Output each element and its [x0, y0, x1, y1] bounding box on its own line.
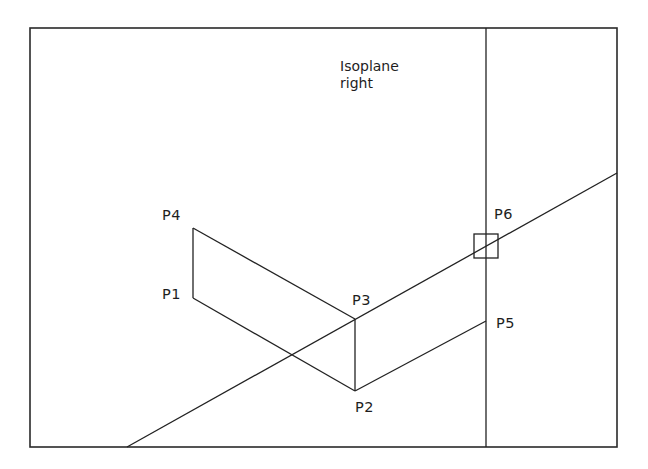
drawing-frame [30, 28, 617, 447]
point-label-p6: P6 [494, 207, 513, 222]
point-label-p3: P3 [352, 293, 371, 308]
drawing-canvas [0, 0, 648, 469]
point-label-p4: P4 [162, 208, 181, 223]
segment-p1-p2 [193, 298, 355, 391]
point-label-p5: P5 [496, 316, 515, 331]
isoplane-note: Isoplane right [340, 58, 399, 92]
point-label-p1: P1 [162, 287, 181, 302]
isoplane-note-line-1: Isoplane [340, 58, 399, 75]
segment-p4-p3 [193, 228, 355, 319]
point-label-p2: P2 [355, 400, 374, 415]
segment-p2-p5 [355, 321, 486, 391]
isoplane-note-line-2: right [340, 75, 399, 92]
